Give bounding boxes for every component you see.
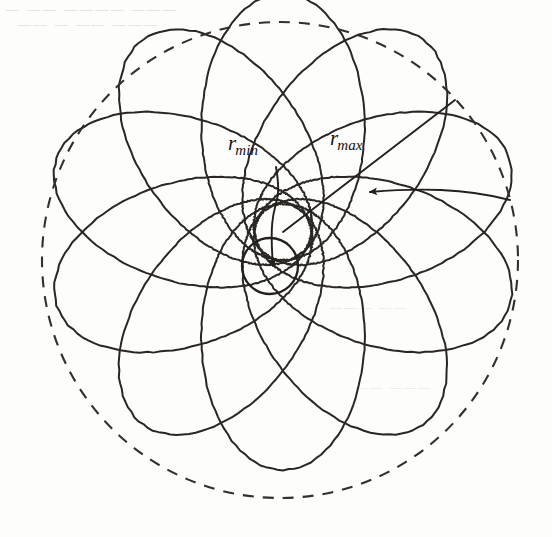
orbit-diagram-svg (0, 0, 552, 537)
orbit-figure: — —— ———— ——— —— — —— ——— ——— —— —— ——— … (0, 0, 552, 537)
r-min-label-subscript: min (235, 142, 258, 158)
r-min-label: rmin (228, 131, 258, 159)
orbit-petal-7 (119, 29, 324, 265)
orbit-petal-group (54, 0, 513, 471)
orbit-petal-10 (119, 199, 324, 435)
r-max-label: rmax (330, 126, 363, 154)
orbit-petal-2 (242, 199, 447, 435)
r-min-leader-arrow (272, 167, 278, 266)
precession-direction-arrow (370, 190, 510, 200)
r-max-label-subscript: max (337, 137, 362, 153)
